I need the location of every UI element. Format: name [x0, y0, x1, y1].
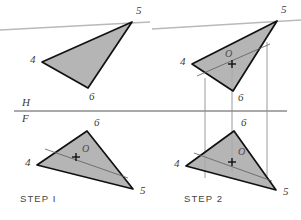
step-1-top-view-label-6: 6 [89, 90, 95, 102]
ref-label-f-text: F [21, 112, 29, 124]
step-1-front-view-label-4: 4 [25, 156, 31, 168]
step-2-top-view-label-5: 5 [281, 3, 287, 15]
step-1-front-view-label-6: 6 [94, 116, 100, 128]
step-2-caption: STEP 2 [184, 193, 223, 204]
step-2-front-view-label-O: O [238, 146, 245, 157]
step-1-top-view-triangle [42, 22, 132, 88]
step-1-caption: STEP I [20, 193, 57, 204]
step-2-front-view-label-4: 4 [174, 157, 180, 169]
step-1-top-view-label-4: 4 [30, 53, 36, 65]
step-2-top-view-label-6: 6 [238, 91, 244, 103]
step-2-top-view-label-O: O [225, 48, 232, 59]
step-2-front-view-label-6: 6 [241, 116, 247, 128]
step-2-top-view-label-4: 4 [180, 55, 186, 67]
step-1-top-view-label-5: 5 [136, 4, 142, 16]
step-1-front-view-label-O: O [82, 143, 89, 154]
step-1-front-view-triangle [37, 131, 133, 189]
orthographic-projection-figure: 456O645O456O645HFSTEP ISTEP 2 [0, 0, 301, 220]
step-2-front-view-triangle [186, 131, 276, 190]
step-1-front-view-label-5: 5 [140, 184, 146, 196]
ref-label-h-text: H [21, 96, 31, 108]
step-2-horizon-line [152, 20, 301, 29]
step-2-front-view-label-5: 5 [283, 185, 289, 197]
drawing-canvas: 456O645O456O645HFSTEP ISTEP 2 H F STEP I… [0, 0, 301, 220]
